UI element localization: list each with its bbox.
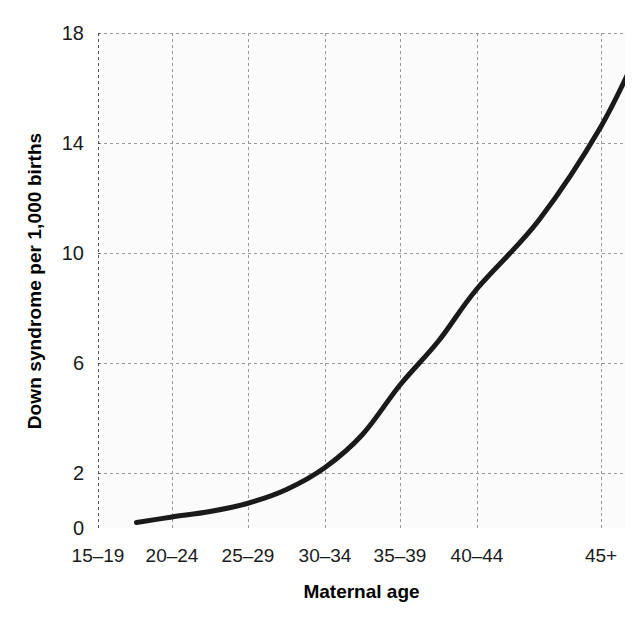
y-tick-label: 18 [34,22,84,45]
x-tick-label: 40–44 [432,545,522,567]
y-tick-label: 0 [34,517,84,540]
x-tick-label: 45+ [556,545,640,567]
x-axis-title: Maternal age [98,581,625,603]
horizontal-gridlines [98,34,625,529]
plot-canvas [98,33,625,528]
plot-area [98,33,625,528]
y-axis-title: Down syndrome per 1,000 births [24,61,46,501]
vertical-gridlines [99,33,602,528]
data-line-down-syndrome-rate [136,39,625,523]
chart-figure: Down syndrome per 1,000 births 026101418… [0,0,640,622]
